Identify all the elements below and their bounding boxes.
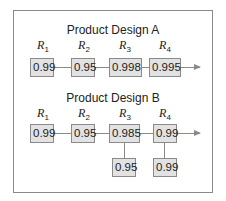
design-a-component-r2: 0.95 <box>71 58 95 77</box>
design-a-component-r4: 0.995 <box>149 58 181 77</box>
design-b-component-r2: 0.95 <box>71 124 95 143</box>
design-b-component-r1: 0.99 <box>30 124 54 143</box>
design-a-component-r1: 0.99 <box>30 58 54 77</box>
design-b-r3-backup-connector <box>124 142 125 159</box>
design-b-label-r4: R4 <box>150 106 180 122</box>
design-b-backup-r4: 0.99 <box>153 158 177 177</box>
design-b-title: Product Design B <box>0 91 226 105</box>
design-a-label-r2: R2 <box>69 38 99 54</box>
design-b-component-r3: 0.985 <box>109 124 140 143</box>
design-b-backup-r3: 0.95 <box>112 158 136 177</box>
design-b-label-r3: R3 <box>110 106 140 122</box>
design-b-output-arrow-icon <box>194 130 201 136</box>
design-b-label-r2: R2 <box>69 106 99 122</box>
design-b-r4-backup-connector <box>164 142 165 159</box>
design-b-label-r1: R1 <box>28 106 58 122</box>
design-a-component-r3: 0.998 <box>109 58 142 77</box>
design-a-label-r4: R4 <box>150 38 180 54</box>
design-a-title: Product Design A <box>0 23 226 37</box>
design-a-output-arrow-icon <box>194 64 201 70</box>
design-a-label-r3: R3 <box>110 38 140 54</box>
design-b-component-r4: 0.99 <box>153 124 177 143</box>
design-a-label-r1: R1 <box>28 38 58 54</box>
